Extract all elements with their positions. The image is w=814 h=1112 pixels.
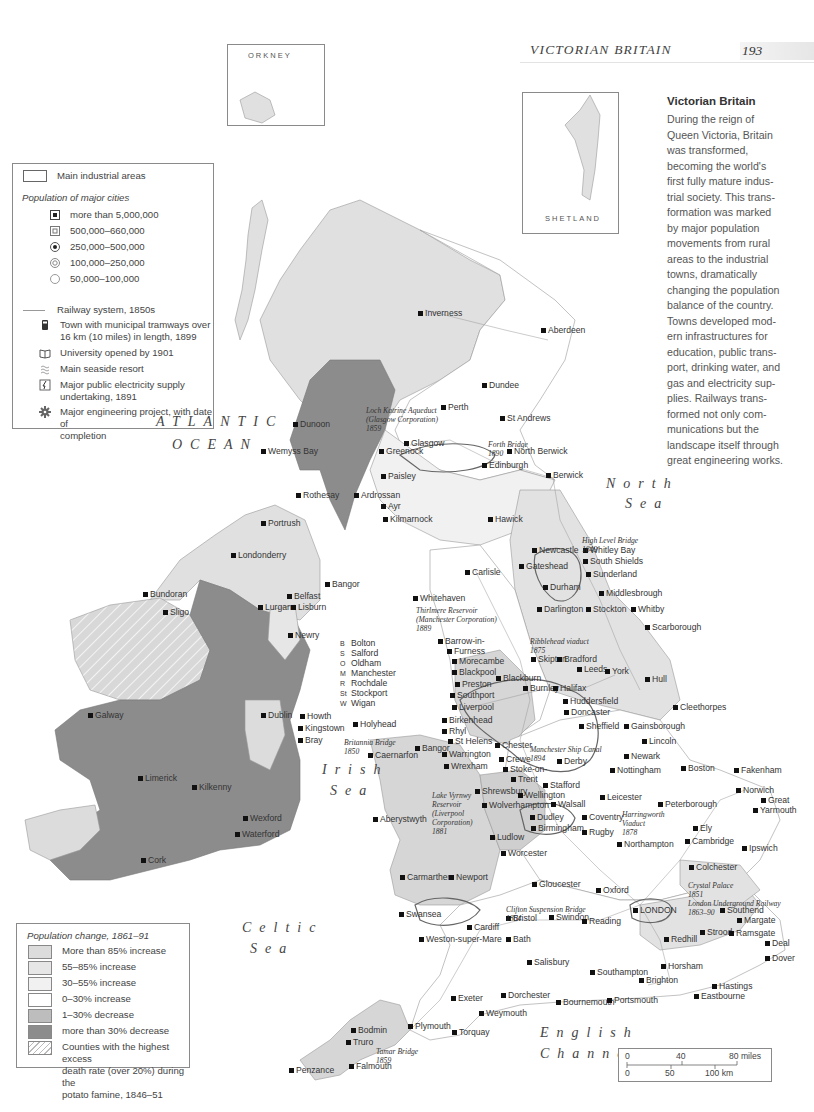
legend-electricity: Major public electricity supplyundertaki… [39,379,185,403]
town-key-row: StStockport [340,688,387,698]
place-label: Wolverhampton [489,800,549,810]
place-label: Cork [148,855,166,865]
city-dot-icon [736,788,741,793]
sea-label-irish-sea: Sea [330,783,374,799]
color-swatch [28,945,52,959]
place-label: Ardrossan [361,490,400,500]
city-dot-icon [543,783,548,788]
city-dot-icon [475,789,480,794]
place-label: Torquay [459,1027,490,1037]
town-key-letter: B [340,640,351,647]
place-label: Blackpool [459,667,496,677]
place-label: Wemyss Bay [268,446,318,456]
city-dot-icon [633,908,638,913]
engineering-project-label: Tamar Bridge1859 [376,1047,418,1065]
city-dot-icon [579,724,584,729]
sea-label-north: North [606,476,679,492]
intro-line: towns, dramatically [667,267,814,283]
city-dot-icon [693,826,698,831]
city-dot-icon [399,912,404,917]
place-label: Bundoran [150,589,187,599]
city-dot-icon [490,835,495,840]
city-dot-icon [291,605,296,610]
place-label: South Shields [590,556,643,566]
place-label: Dunoon [300,419,330,429]
sea-label-english: English [540,1025,639,1041]
place-label: Gloucester [539,879,581,889]
town-key-name: Wigan [351,698,375,708]
place-label: Boston [688,763,715,773]
color-swatch [28,961,52,975]
place-label: St Helens [455,736,492,746]
place-label: Perth [448,402,469,412]
place-label: Doncaster [571,707,610,717]
legend-label: 250,000–500,000 [70,241,145,252]
place-label: Portsmouth [614,995,658,1005]
legend-label: 55–85% increase [62,961,136,972]
city-dot-icon [447,649,452,654]
town-key-name: Bolton [351,638,375,648]
place-label: Colchester [696,862,737,872]
place-label: Aberystwyth [380,814,427,824]
city-dot-icon [582,815,587,820]
city-dot-icon [658,802,663,807]
place-label: Ely [700,823,712,833]
sea-label-atlantic: ATLANTIC [156,414,283,430]
city-dot-icon [673,705,678,710]
electricity-icon [39,379,51,391]
city-dot-icon [261,449,266,454]
scale-miles-80: 80 miles [729,1051,761,1061]
place-label: Aberdeen [548,325,585,335]
city-dot-icon [261,713,266,718]
city-dot-icon [518,793,523,798]
place-label: Penzance [296,1065,334,1075]
place-label: Northampton [624,839,674,849]
place-label: Newport [456,872,488,882]
engineering-project-label: Manchester Ship Canal1894 [530,745,602,763]
place-label: Stafford [550,780,580,790]
intro-line: changing the population [667,283,814,299]
intro-line: munications but the [667,422,814,438]
city-dot-icon [532,548,537,553]
intro-line: formation was marked [667,205,814,221]
city-dot-icon [496,676,501,681]
city-dot-icon [685,839,690,844]
place-label: Birkenhead [449,715,492,725]
city-dot-icon [488,517,493,522]
town-key-row: BBolton [340,638,375,648]
city-dot-icon [288,633,293,638]
industrial-area-swatch [23,170,47,182]
city-dot-icon [607,998,612,1003]
place-label: Kilmarnock [390,514,433,524]
city-dot-icon [617,842,622,847]
seaside-resort-icon [39,363,51,375]
place-label: Gateshead [526,561,568,571]
place-label: Southampton [597,967,648,977]
place-label: Reading [589,916,621,926]
city-dot-icon [546,473,551,478]
city-dot-icon [442,729,447,734]
town-key-letter: St [340,690,351,697]
town-key-letter: O [340,660,351,667]
intro-line: Towns developed mod- [667,314,814,330]
city-dot-icon [258,605,263,610]
city-dot-icon [753,808,758,813]
place-label: St Andrews [507,413,550,423]
city-dot-icon [325,582,330,587]
place-label: Limerick [145,773,177,783]
place-label: Middlesbrough [606,588,662,598]
place-label: Leeds [584,664,607,674]
place-label: Eastbourne [701,991,745,1001]
university-book-icon [39,347,51,359]
city-dot-icon [531,826,536,831]
legend-tramways: Town with municipal tramways over16 km (… [39,319,210,343]
engineering-project-label: Clifton Suspension Bridge1864 [506,905,586,923]
place-label: Berwick [553,470,583,480]
city-dot-icon [482,383,487,388]
city-dot-icon [543,585,548,590]
city-dot-icon [467,925,472,930]
city-dot-icon [452,659,457,664]
city-dot-icon [138,776,143,781]
place-label: Chester [502,740,532,750]
city-dot-icon [624,754,629,759]
